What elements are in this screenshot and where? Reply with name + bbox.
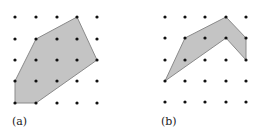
- figure-a: [13, 15, 98, 104]
- lattice-dot: [163, 100, 166, 103]
- lattice-dot: [55, 37, 58, 40]
- lattice-dot: [244, 15, 247, 18]
- lattice-dot: [75, 101, 78, 104]
- lattice-dot: [224, 58, 227, 61]
- lattice-dot: [55, 58, 58, 61]
- lattice-dot: [203, 58, 206, 61]
- lattice-dot: [13, 15, 16, 18]
- lattice-dot: [163, 15, 166, 18]
- lattice-dot: [163, 58, 166, 61]
- lattice-dot: [95, 101, 98, 104]
- lattice-dot: [183, 58, 186, 61]
- lattice-dot: [224, 79, 227, 82]
- lattice-dot: [95, 37, 98, 40]
- lattice-dot: [163, 36, 166, 39]
- lattice-dot: [13, 58, 16, 61]
- lattice-dot: [203, 15, 206, 18]
- figure-label-a: (a): [12, 115, 27, 128]
- figure-label-b: (b): [161, 115, 177, 128]
- lattice-dot: [13, 79, 16, 82]
- lattice-dot: [95, 15, 98, 18]
- lattice-dot: [95, 79, 98, 82]
- lattice-dot: [244, 58, 247, 61]
- lattice-dot: [75, 15, 78, 18]
- lattice-dot: [75, 58, 78, 61]
- lattice-dot: [244, 36, 247, 39]
- lattice-polygon-diagram: [0, 0, 259, 133]
- lattice-dot: [203, 100, 206, 103]
- lattice-dot: [183, 79, 186, 82]
- lattice-dot: [55, 101, 58, 104]
- lattice-dot: [13, 101, 16, 104]
- lattice-dot: [224, 100, 227, 103]
- lattice-dot: [95, 58, 98, 61]
- lattice-dot: [203, 79, 206, 82]
- lattice-dot: [55, 15, 58, 18]
- lattice-dot: [203, 36, 206, 39]
- lattice-dot: [183, 100, 186, 103]
- lattice-dot: [183, 36, 186, 39]
- lattice-dot: [34, 15, 37, 18]
- lattice-dot: [34, 101, 37, 104]
- lattice-dot: [75, 37, 78, 40]
- lattice-dot: [224, 36, 227, 39]
- lattice-dot: [183, 15, 186, 18]
- lattice-dot: [55, 79, 58, 82]
- lattice-dot: [13, 37, 16, 40]
- lattice-dot: [163, 79, 166, 82]
- lattice-dot: [75, 79, 78, 82]
- lattice-dot: [244, 79, 247, 82]
- lattice-dot: [34, 79, 37, 82]
- figure-b: [163, 15, 247, 103]
- lattice-dot: [34, 58, 37, 61]
- lattice-dot: [224, 15, 227, 18]
- lattice-polygon-b: [165, 17, 246, 81]
- lattice-dot: [244, 100, 247, 103]
- lattice-dot: [34, 37, 37, 40]
